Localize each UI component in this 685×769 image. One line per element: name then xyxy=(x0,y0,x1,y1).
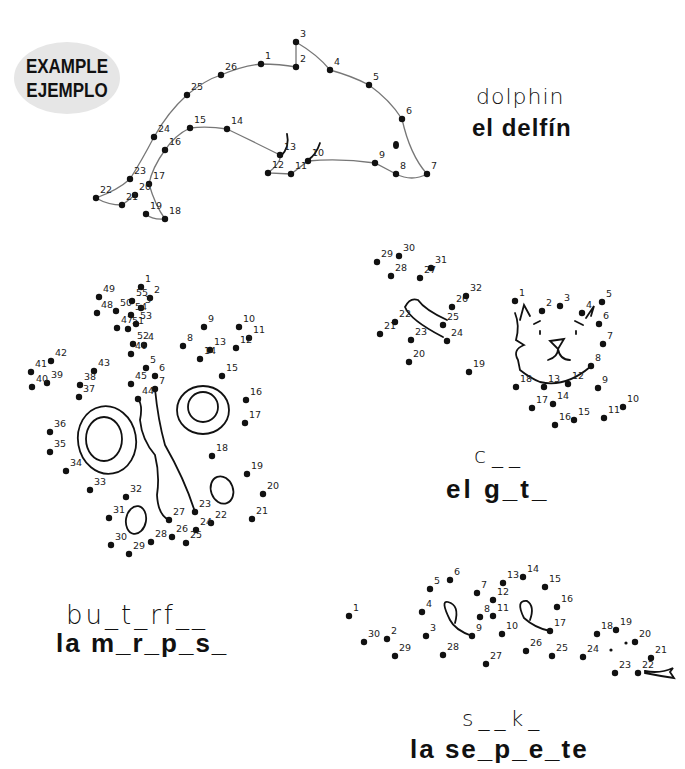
dot-33 xyxy=(87,487,93,493)
dot-26 xyxy=(449,304,455,310)
snake-drawing xyxy=(444,601,674,678)
dot-label: 17 xyxy=(249,409,261,420)
dot-label: 20 xyxy=(139,181,151,192)
dot-label: 24 xyxy=(158,123,170,134)
dot-27 xyxy=(417,275,423,281)
dot-14 xyxy=(550,401,556,407)
dot-label: 15 xyxy=(549,573,561,584)
dot-label: 4 xyxy=(426,598,432,609)
dot-30 xyxy=(108,542,114,548)
dot-18 xyxy=(209,453,215,459)
dot-9 xyxy=(595,385,601,391)
dot-label: 45 xyxy=(135,370,147,381)
dot-12 xyxy=(490,597,496,603)
dot-label: 24 xyxy=(587,643,599,654)
dot-label: 33 xyxy=(94,476,106,487)
dot-16 xyxy=(243,397,249,403)
dot-label: 43 xyxy=(98,357,110,368)
dot-label: 16 xyxy=(559,411,571,422)
dot-44 xyxy=(135,396,141,402)
dot-label: 5 xyxy=(150,354,156,365)
dot-16 xyxy=(552,422,558,428)
dot-label: 3 xyxy=(430,622,436,633)
dolphin-spanish-word: el delfín xyxy=(472,114,572,142)
dot-label: 18 xyxy=(520,373,532,384)
dot-4 xyxy=(579,310,585,316)
dot-54 xyxy=(128,312,134,318)
dot-16 xyxy=(162,147,168,153)
dot-label: 6 xyxy=(603,310,609,321)
dot-15 xyxy=(187,125,193,131)
dot-label: 1 xyxy=(353,602,359,613)
dot-1 xyxy=(346,613,352,619)
snake-dots: 1234567891011121314151617181920212223242… xyxy=(346,563,667,676)
dot-37 xyxy=(76,394,82,400)
dot-10 xyxy=(499,631,505,637)
dot-53 xyxy=(133,321,139,327)
dot-label: 8 xyxy=(400,160,406,171)
dot-26 xyxy=(218,72,224,78)
dot-label: 15 xyxy=(578,406,590,417)
dot-label: 31 xyxy=(435,254,447,265)
dot-3 xyxy=(557,303,563,309)
dot-label: 25 xyxy=(191,81,203,92)
dot-label: 39 xyxy=(51,369,63,380)
dot-label: 1 xyxy=(265,50,271,61)
dot-50 xyxy=(113,308,119,314)
dot-label: 5 xyxy=(373,71,379,82)
dot-22 xyxy=(93,195,99,201)
dot-label: 7 xyxy=(607,330,613,341)
dot-14 xyxy=(197,356,203,362)
dot-label: 14 xyxy=(204,345,216,356)
dot-35 xyxy=(47,449,53,455)
badge-line-2: EJEMPLO xyxy=(22,78,112,102)
dot-label: 25 xyxy=(190,529,202,540)
dot-31 xyxy=(428,265,434,271)
dot-29 xyxy=(374,259,380,265)
dot-label: 21 xyxy=(655,644,667,655)
dot-32 xyxy=(463,293,469,299)
dot-16 xyxy=(554,604,560,610)
dot-32 xyxy=(123,494,129,500)
dot-label: 25 xyxy=(556,642,568,653)
dot-label: 12 xyxy=(272,159,284,170)
dot-24 xyxy=(444,338,450,344)
dot-15 xyxy=(542,584,548,590)
dot-label: 31 xyxy=(113,504,125,515)
dot-label: 2 xyxy=(391,625,397,636)
cat-drawing xyxy=(405,299,594,383)
dot-25 xyxy=(184,92,190,98)
dot-label: 54 xyxy=(135,301,147,312)
dot-label: 20 xyxy=(413,348,425,359)
dot-12 xyxy=(233,345,239,351)
dot-14 xyxy=(520,574,526,580)
dot-30 xyxy=(361,639,367,645)
dot-25 xyxy=(183,540,189,546)
dot-label: 22 xyxy=(642,659,654,670)
dot-22 xyxy=(635,670,641,676)
dot-4 xyxy=(419,609,425,615)
snake-english-word: s__k_ xyxy=(462,706,544,731)
dot-label: 23 xyxy=(619,659,631,670)
dot-label: 18 xyxy=(169,205,181,216)
dot-8 xyxy=(477,614,483,620)
dot-label: 30 xyxy=(115,531,127,542)
dot-label: 9 xyxy=(602,374,608,385)
dot-label: 9 xyxy=(208,313,214,324)
dot-label: 1 xyxy=(519,287,525,298)
dot-label: 3 xyxy=(564,292,570,303)
dot-label: 20 xyxy=(639,628,651,639)
dot-label: 28 xyxy=(395,262,407,273)
dot-48 xyxy=(94,310,100,316)
dot-34 xyxy=(63,468,69,474)
dot-label: 28 xyxy=(447,641,459,652)
dot-25 xyxy=(549,653,555,659)
dot-label: 11 xyxy=(295,160,307,171)
cat-english-word: c__ xyxy=(474,443,526,468)
dolphin-english-word: dolphin xyxy=(476,84,565,109)
dot-13 xyxy=(541,384,547,390)
dot-23 xyxy=(612,670,618,676)
dot-2 xyxy=(539,308,545,314)
dot-label: 27 xyxy=(173,506,185,517)
dot-label: 12 xyxy=(497,586,509,597)
